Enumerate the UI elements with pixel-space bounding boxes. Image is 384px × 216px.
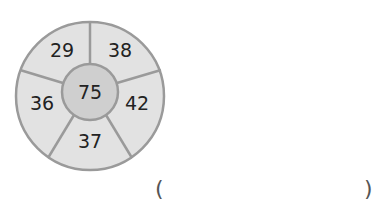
segment-value: 42 <box>125 92 149 114</box>
segment-value: 37 <box>78 130 102 152</box>
answer-close-paren: ) <box>364 176 373 201</box>
answer-open-paren: ( <box>155 176 164 201</box>
number-wheel: 75 29 38 42 37 36 <box>0 0 200 190</box>
segment-value: 29 <box>50 39 74 61</box>
center-value: 75 <box>78 81 102 103</box>
segment-value: 36 <box>30 92 54 114</box>
segment-value: 38 <box>108 39 132 61</box>
